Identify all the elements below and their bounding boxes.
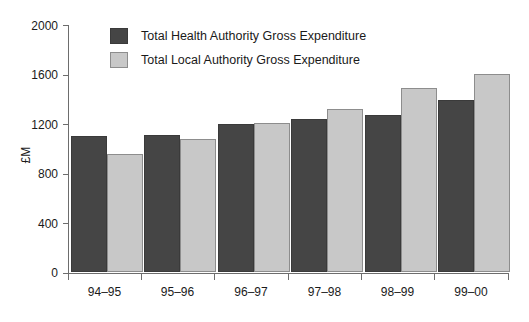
y-tick-mark-1200 (63, 124, 68, 125)
bar-96-97-local (254, 123, 290, 272)
x-cat-label-98-99: 98–99 (361, 285, 434, 299)
y-tick-mark-800 (63, 174, 68, 175)
legend-swatch-icon-local (110, 52, 128, 68)
x-tick-mark-2 (214, 274, 215, 280)
y-tick-label-800: 800 (18, 167, 58, 181)
legend-label-health: Total Health Authority Gross Expenditure (141, 29, 366, 43)
y-tick-label-1200: 1200 (18, 118, 58, 132)
bar-97-98-local (327, 109, 363, 272)
bar-97-98-health (291, 119, 327, 272)
x-tick-mark-0 (68, 274, 69, 280)
bar-94-95-health (71, 136, 107, 272)
x-tick-mark-5 (434, 274, 435, 280)
x-tick-mark-3 (288, 274, 289, 280)
bar-96-97-health (218, 124, 254, 272)
y-tick-label-2000: 2000 (18, 19, 58, 33)
y-tick-mark-2000 (63, 25, 68, 26)
bar-95-96-health (144, 135, 180, 272)
bar-95-96-local (180, 139, 216, 272)
legend-item-health: Total Health Authority Gross Expenditure (110, 24, 366, 48)
y-tick-label-400: 400 (18, 217, 58, 231)
bar-chart: £M 2000 1600 1200 800 400 0 94–95 95–96 … (0, 0, 529, 322)
x-cat-label-97-98: 97–98 (288, 285, 361, 299)
x-cat-label-94-95: 94–95 (68, 285, 141, 299)
bar-99-00-health (438, 100, 474, 272)
legend-item-local: Total Local Authority Gross Expenditure (110, 48, 366, 72)
bar-94-95-local (107, 154, 143, 272)
legend-swatch-icon-health (110, 28, 128, 44)
bar-98-99-health (365, 115, 401, 272)
legend-label-local: Total Local Authority Gross Expenditure (141, 53, 360, 67)
y-tick-label-0: 0 (18, 266, 58, 280)
x-cat-label-99-00: 99–00 (434, 285, 508, 299)
x-tick-mark-6 (508, 274, 509, 280)
legend: Total Health Authority Gross Expenditure… (110, 24, 366, 72)
bar-99-00-local (474, 74, 510, 272)
y-tick-label-1600: 1600 (18, 68, 58, 82)
y-axis-line (68, 25, 69, 274)
x-tick-mark-1 (141, 274, 142, 280)
x-cat-label-96-97: 96–97 (214, 285, 288, 299)
x-tick-mark-4 (361, 274, 362, 280)
bar-98-99-local (401, 88, 437, 272)
x-cat-label-95-96: 95–96 (141, 285, 214, 299)
y-tick-mark-400 (63, 223, 68, 224)
y-tick-mark-1600 (63, 75, 68, 76)
